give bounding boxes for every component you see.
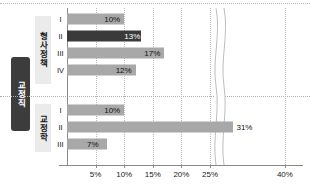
bar-value-label: 12% [116,66,132,75]
bar-value-label: 13% [124,32,140,41]
row-label: I [55,15,66,24]
bar-value-label: 10% [104,15,120,24]
x-tick-label: 20% [173,170,189,179]
bar-value-label: 10% [104,106,120,115]
row-label: IV [55,66,66,75]
outer-category-label: 교정직 [11,57,30,131]
bar-value-label: 17% [144,49,160,58]
row-label: II [55,32,66,41]
row-label: II [55,123,66,132]
x-tick-label: 40% [277,170,293,179]
gridline-20% [181,8,182,165]
top-divider-rule [0,3,310,4]
group-label-0-text: 형사정책 [39,32,48,68]
x-tick-label: 5% [90,170,102,179]
group-divider [0,96,310,97]
row-label: I [55,106,66,115]
bar-chart: 교정직 형사정책 교정학 10%13%17%12%10%31%7% IIIIII… [0,0,310,193]
gridline-25% [210,8,211,165]
gridline-40% [285,8,286,165]
bar-value-label: 31% [236,123,252,132]
group-label-1-text: 교정학 [39,115,48,142]
x-tick-label: 15% [145,170,161,179]
group-label-1: 교정학 [35,104,51,152]
x-tick-label: 10% [116,170,132,179]
bar [67,122,233,133]
row-label: III [55,140,66,149]
row-label: III [55,49,66,58]
gridline-15% [153,8,154,165]
x-axis-line [59,165,303,166]
bar-value-label: 7% [87,140,99,149]
group-label-0: 형사정책 [35,16,51,84]
x-tick-label: 25% [202,170,218,179]
axis-break-mask [214,8,225,165]
outer-category-label-text: 교정직 [16,81,25,108]
